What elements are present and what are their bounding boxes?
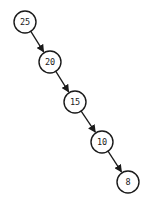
node-label: 8 [125,177,130,187]
tree-diagram: 252015108 [0,0,163,208]
node-label: 10 [97,137,107,147]
tree-node-15: 15 [64,91,86,113]
edge-arrow-20-to-15 [56,71,69,91]
edge-arrow-10-to-8 [108,151,121,172]
edge-arrow-25-to-20 [31,31,44,51]
node-label: 15 [70,97,80,107]
tree-node-10: 10 [91,131,113,153]
tree-node-25: 25 [14,11,36,33]
tree-node-20: 20 [39,51,61,73]
node-label: 25 [20,17,30,27]
edge-arrow-15-to-10 [81,111,95,132]
node-label: 20 [45,57,55,67]
nodes: 252015108 [14,11,139,193]
tree-node-8: 8 [117,171,139,193]
